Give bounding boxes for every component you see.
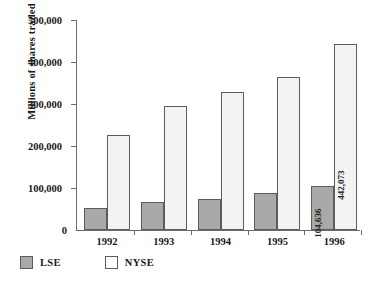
bar-value-label: 442,073 — [336, 170, 346, 199]
bar-group — [84, 20, 130, 230]
x-axis-label-1996: 1996 — [324, 236, 345, 247]
y-axis-tick-label: 300,000 — [28, 99, 62, 110]
chart-legend: LSE NYSE — [20, 256, 154, 269]
x-axis-label-1994: 1994 — [210, 236, 231, 247]
bar-lse-1992[interactable] — [84, 208, 107, 230]
y-axis-tick-label: 100,000 — [28, 183, 62, 194]
bar-nyse-1994[interactable] — [221, 92, 244, 230]
legend-label-lse: LSE — [40, 257, 61, 268]
bar-chart: Millions of shares traded 100,000200,000… — [0, 0, 368, 282]
bar-group: 104,636442,073 — [311, 20, 357, 230]
bar-group — [141, 20, 187, 230]
legend-label-nyse: NYSE — [125, 257, 154, 268]
legend-item-lse: LSE — [20, 256, 61, 269]
y-axis-tick-label: 500,000 — [28, 15, 62, 26]
bar-lse-1994[interactable] — [198, 199, 221, 230]
bar-lse-1995[interactable] — [254, 193, 277, 230]
bar-lse-1993[interactable] — [141, 202, 164, 230]
y-axis-tick: 400,000 — [71, 62, 77, 63]
nyse-swatch-icon — [105, 256, 118, 269]
bar-nyse-1993[interactable] — [164, 106, 187, 230]
y-axis-tick: 300,000 — [71, 104, 77, 105]
bar-group — [198, 20, 244, 230]
y-axis-line — [76, 20, 77, 231]
bar-nyse-1995[interactable] — [277, 77, 300, 230]
x-axis-label-1995: 1995 — [267, 236, 288, 247]
x-axis-tick — [248, 230, 249, 235]
bar-group — [254, 20, 300, 230]
x-axis-label-1992: 1992 — [97, 236, 118, 247]
y-axis-tick-label: 400,000 — [28, 57, 62, 68]
plot-area: 100,000200,000300,000400,000500,000 0 10… — [76, 20, 360, 230]
y-axis-tick-label: 200,000 — [28, 141, 62, 152]
x-axis-tick — [134, 230, 135, 235]
bar-nyse-1992[interactable] — [107, 135, 130, 230]
lse-swatch-icon — [20, 256, 33, 269]
x-axis-tick — [191, 230, 192, 235]
bar-nyse-1996[interactable]: 442,073 — [334, 44, 357, 230]
y-axis-tick: 200,000 — [71, 146, 77, 147]
bar-value-label: 104,636 — [313, 208, 323, 237]
x-axis-tick — [361, 230, 362, 235]
bar-lse-1996[interactable]: 104,636 — [311, 186, 334, 230]
y-axis-zero-label: 0 — [62, 225, 67, 236]
y-axis-tick: 500,000 — [71, 20, 77, 21]
legend-item-nyse: NYSE — [105, 256, 154, 269]
y-axis-tick: 100,000 — [71, 188, 77, 189]
x-axis-tick — [304, 230, 305, 235]
x-axis-label-1993: 1993 — [153, 236, 174, 247]
